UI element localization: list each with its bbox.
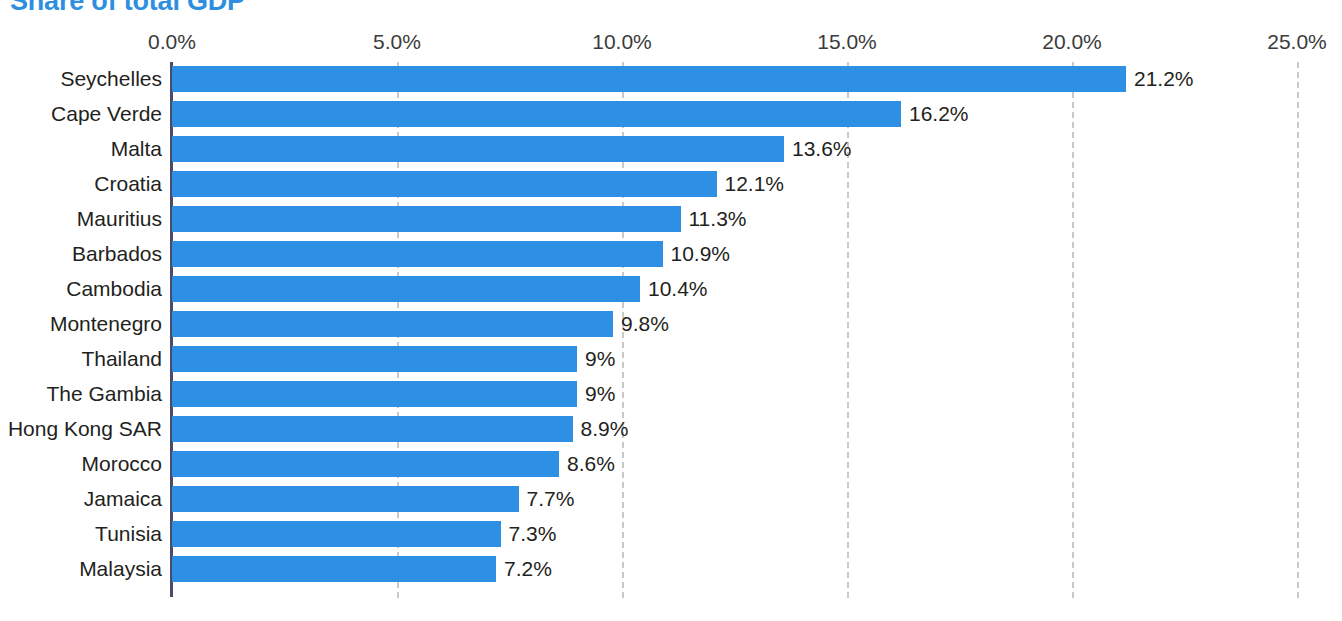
bar: [172, 381, 577, 407]
x-tick-label: 15.0%: [817, 30, 877, 54]
chart-bottom-margin: [0, 598, 1342, 621]
category-label: Malaysia: [0, 557, 162, 581]
bar-row: Tunisia7.3%: [0, 518, 1342, 553]
bar-row: Thailand9%: [0, 343, 1342, 378]
category-label: Tunisia: [0, 522, 162, 546]
bar-row: Montenegro9.8%: [0, 308, 1342, 343]
bar-value-label: 9%: [585, 382, 615, 406]
bar-row: Seychelles21.2%: [0, 63, 1342, 98]
bar-row: Croatia12.1%: [0, 168, 1342, 203]
bar-value-label: 9%: [585, 347, 615, 371]
category-label: Hong Kong SAR: [0, 417, 162, 441]
bar: [172, 171, 717, 197]
bar-value-label: 13.6%: [792, 137, 852, 161]
bar: [172, 486, 519, 512]
bar-value-label: 7.3%: [509, 522, 557, 546]
bar-value-label: 21.2%: [1134, 67, 1194, 91]
bar-value-label: 10.4%: [648, 277, 708, 301]
bar: [172, 416, 573, 442]
bar-row: Mauritius11.3%: [0, 203, 1342, 238]
plot-area: Seychelles21.2%Cape Verde16.2%Malta13.6%…: [0, 62, 1342, 598]
bar: [172, 556, 496, 582]
bar-value-label: 16.2%: [909, 102, 969, 126]
category-label: Malta: [0, 137, 162, 161]
bar: [172, 241, 663, 267]
x-axis-tick-labels: 0.0%5.0%10.0%15.0%20.0%25.0%: [0, 30, 1342, 54]
bar-row: Cambodia10.4%: [0, 273, 1342, 308]
bar-row: The Gambia9%: [0, 378, 1342, 413]
bar: [172, 451, 559, 477]
bar-row: Hong Kong SAR8.9%: [0, 413, 1342, 448]
bar: [172, 101, 901, 127]
bar-row: Barbados10.9%: [0, 238, 1342, 273]
x-tick-label: 25.0%: [1267, 30, 1327, 54]
bar-value-label: 10.9%: [671, 242, 731, 266]
x-tick-label: 20.0%: [1042, 30, 1102, 54]
category-label: Montenegro: [0, 312, 162, 336]
bar-value-label: 7.7%: [527, 487, 575, 511]
bar: [172, 136, 784, 162]
x-tick-label: 0.0%: [148, 30, 196, 54]
bar: [172, 206, 681, 232]
category-label: Thailand: [0, 347, 162, 371]
x-tick-label: 5.0%: [373, 30, 421, 54]
chart-title: Share of total GDP: [10, 0, 245, 17]
bar-row: Morocco8.6%: [0, 448, 1342, 483]
bar-chart: Share of total GDP 0.0%5.0%10.0%15.0%20.…: [0, 0, 1342, 621]
category-label: Seychelles: [0, 67, 162, 91]
x-tick-label: 10.0%: [592, 30, 652, 54]
bar-row: Malta13.6%: [0, 133, 1342, 168]
bar: [172, 311, 613, 337]
bar-row: Cape Verde16.2%: [0, 98, 1342, 133]
category-label: Cape Verde: [0, 102, 162, 126]
bar-value-label: 8.6%: [567, 452, 615, 476]
bar: [172, 346, 577, 372]
bar-row: Jamaica7.7%: [0, 483, 1342, 518]
category-label: Mauritius: [0, 207, 162, 231]
category-label: The Gambia: [0, 382, 162, 406]
category-label: Morocco: [0, 452, 162, 476]
bar-row: Malaysia7.2%: [0, 553, 1342, 588]
category-label: Croatia: [0, 172, 162, 196]
bar-value-label: 7.2%: [504, 557, 552, 581]
bar-value-label: 8.9%: [581, 417, 629, 441]
category-label: Jamaica: [0, 487, 162, 511]
bar-value-label: 11.3%: [689, 207, 747, 231]
category-label: Cambodia: [0, 277, 162, 301]
bar-value-label: 9.8%: [621, 312, 669, 336]
bar-value-label: 12.1%: [725, 172, 785, 196]
bar: [172, 66, 1126, 92]
category-label: Barbados: [0, 242, 162, 266]
bar: [172, 521, 501, 547]
bar: [172, 276, 640, 302]
